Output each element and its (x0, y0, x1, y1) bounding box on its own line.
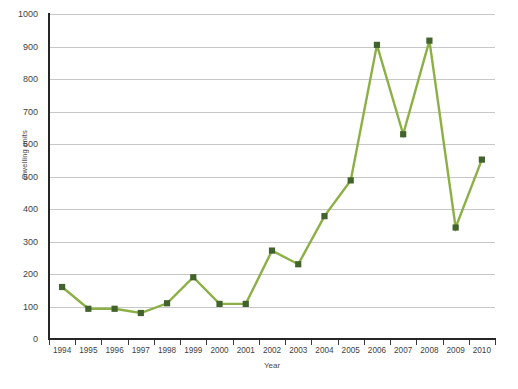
x-tick-label-2004: 2004 (315, 346, 333, 355)
x-tick-9 (285, 340, 286, 345)
data-point-1998 (164, 300, 170, 306)
y-tick-label-200: 200 (23, 269, 38, 279)
data-point-1995 (85, 306, 91, 312)
data-point-2001 (243, 301, 249, 307)
x-tick-label-2006: 2006 (368, 346, 386, 355)
x-tick-label-1998: 1998 (158, 346, 176, 355)
data-point-2008 (426, 38, 432, 44)
x-tick-label-1995: 1995 (79, 346, 97, 355)
x-tick-17 (495, 340, 496, 345)
data-point-2004 (321, 213, 327, 219)
x-tick-label-2010: 2010 (473, 346, 491, 355)
y-axis-tick-labels: 01002003004005006007008009001000 (0, 14, 44, 339)
x-tick-label-1996: 1996 (105, 346, 123, 355)
y-tick-label-500: 500 (23, 172, 38, 182)
x-tick-6 (206, 340, 207, 345)
x-tick-label-2003: 2003 (289, 346, 307, 355)
data-point-2005 (348, 177, 354, 183)
x-tick-label-2005: 2005 (342, 346, 360, 355)
x-tick-4 (154, 340, 155, 345)
x-tick-8 (259, 340, 260, 345)
x-tick-label-1997: 1997 (132, 346, 150, 355)
data-point-1999 (190, 274, 196, 280)
data-series-line (49, 14, 495, 339)
x-tick-16 (469, 340, 470, 345)
x-tick-label-2008: 2008 (420, 346, 438, 355)
data-point-2010 (479, 157, 485, 163)
x-tick-5 (180, 340, 181, 345)
data-point-2006 (374, 42, 380, 48)
x-tick-label-2000: 2000 (210, 346, 228, 355)
data-point-1996 (111, 306, 117, 312)
plot-area (49, 14, 495, 339)
data-point-1994 (59, 284, 65, 290)
y-tick-label-0: 0 (33, 334, 38, 344)
x-tick-0 (49, 340, 50, 345)
x-tick-label-1999: 1999 (184, 346, 202, 355)
data-point-2002 (269, 248, 275, 254)
x-tick-label-1994: 1994 (53, 346, 71, 355)
data-point-2003 (295, 261, 301, 267)
x-tick-12 (364, 340, 365, 345)
y-tick-label-100: 100 (23, 302, 38, 312)
x-tick-label-2002: 2002 (263, 346, 281, 355)
x-tick-11 (338, 340, 339, 345)
x-tick-14 (416, 340, 417, 345)
y-tick-label-800: 800 (23, 74, 38, 84)
x-tick-label-2007: 2007 (394, 346, 412, 355)
data-point-2007 (400, 131, 406, 137)
x-tick-13 (390, 340, 391, 345)
y-tick-label-700: 700 (23, 107, 38, 117)
series-polyline (62, 41, 482, 313)
x-tick-7 (233, 340, 234, 345)
x-tick-2 (101, 340, 102, 345)
y-tick-label-900: 900 (23, 42, 38, 52)
data-point-1997 (138, 310, 144, 316)
x-tick-15 (443, 340, 444, 345)
chart-figure: Dwelling units 0100200300400500600700800… (0, 0, 518, 389)
x-axis-title: Year (49, 361, 495, 370)
y-tick-label-300: 300 (23, 237, 38, 247)
x-axis-tick-labels: 1994199519961997199819992000200120022003… (49, 346, 495, 360)
x-tick-1 (75, 340, 76, 345)
x-tick-3 (128, 340, 129, 345)
y-tick-label-600: 600 (23, 139, 38, 149)
data-point-2009 (453, 224, 459, 230)
y-tick-label-1000: 1000 (18, 9, 38, 19)
x-tick-10 (311, 340, 312, 345)
data-point-2000 (216, 301, 222, 307)
x-tick-label-2001: 2001 (237, 346, 255, 355)
y-tick-label-400: 400 (23, 204, 38, 214)
y-axis-line (48, 13, 50, 340)
x-tick-label-2009: 2009 (447, 346, 465, 355)
